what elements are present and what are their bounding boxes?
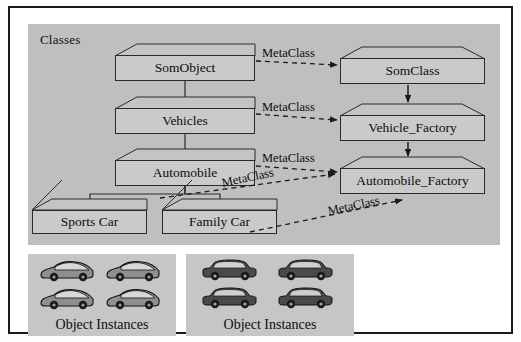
class-box-automobile-factory[interactable]: Automobile_Factory: [340, 156, 485, 194]
sports-car-grid: [28, 258, 176, 314]
sedan-car-icon: [200, 258, 258, 283]
class-box-label: SomObject: [115, 55, 255, 81]
metaclass-label-1: MetaClass: [262, 46, 315, 61]
sports-car-icon: [104, 286, 162, 311]
metaclass-label-3: MetaClass: [262, 151, 315, 166]
class-box-label: Automobile_Factory: [340, 168, 485, 194]
class-box-family-car[interactable]: Family Car: [162, 198, 277, 234]
class-box-sports-car[interactable]: Sports Car: [32, 198, 147, 234]
sports-car-icon: [38, 258, 96, 283]
class-box-somobject[interactable]: SomObject: [115, 43, 255, 81]
object-instances-panel-left: Object Instances: [28, 254, 176, 336]
object-instances-panel-right: Object Instances: [186, 254, 354, 336]
sedan-car-icon: [276, 286, 334, 311]
diagram-canvas: Classes SomObject Vehicles Automobile: [0, 0, 521, 342]
class-box-label: Vehicle_Factory: [340, 115, 485, 141]
object-instances-caption: Object Instances: [186, 317, 354, 333]
classes-panel-title: Classes: [40, 32, 80, 48]
class-box-label: SomClass: [340, 58, 485, 84]
sedan-car-grid: [186, 258, 354, 314]
class-box-label: Family Car: [162, 210, 277, 234]
sedan-car-icon: [276, 258, 334, 283]
sports-car-icon: [104, 258, 162, 283]
class-box-vehicle-factory[interactable]: Vehicle_Factory: [340, 103, 485, 141]
class-box-label: Vehicles: [115, 108, 255, 134]
object-instances-caption: Object Instances: [28, 317, 176, 333]
metaclass-label-2: MetaClass: [262, 100, 315, 115]
diagram-frame: Classes SomObject Vehicles Automobile: [8, 6, 513, 334]
class-box-label: Sports Car: [32, 210, 147, 234]
sports-car-icon: [38, 286, 96, 311]
sedan-car-icon: [200, 286, 258, 311]
class-box-somclass[interactable]: SomClass: [340, 46, 485, 84]
class-box-vehicles[interactable]: Vehicles: [115, 96, 255, 134]
